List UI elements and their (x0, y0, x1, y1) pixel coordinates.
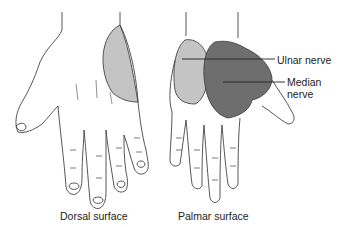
median-label-line2: nerve (287, 88, 321, 100)
dorsal-hand (16, 12, 148, 209)
ulnar-nerve-label: Ulnar nerve (277, 54, 331, 66)
dorsal-caption: Dorsal surface (60, 210, 128, 222)
median-nerve-label: Median nerve (287, 76, 321, 100)
median-label-line1: Median (287, 76, 321, 88)
hands-diagram (0, 0, 339, 227)
palmar-ulnar-region (174, 40, 209, 104)
palmar-median-region (204, 41, 272, 118)
palmar-hand (170, 12, 294, 203)
palmar-caption: Palmar surface (178, 210, 249, 222)
